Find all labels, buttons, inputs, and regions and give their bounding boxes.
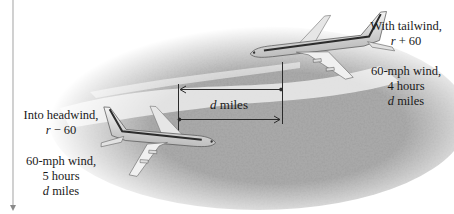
tailwind-distance: d miles xyxy=(360,94,452,109)
distance-unit: miles xyxy=(220,97,248,112)
tailwind-time: 4 hours xyxy=(360,79,452,94)
tailwind-wind: 60-mph wind, xyxy=(360,64,452,79)
headwind-heading: Into headwind, xyxy=(18,108,104,123)
distance-label: d miles xyxy=(210,97,248,113)
rate-expression: + 60 xyxy=(396,34,422,48)
headwind-time: 5 hours xyxy=(18,169,104,184)
headwind-heading-label: Into headwind, r − 60 xyxy=(18,108,104,138)
distance-variable: d xyxy=(210,97,217,112)
rate-expression: − 60 xyxy=(51,123,77,137)
tailwind-trip-label: 60-mph wind, 4 hours d miles xyxy=(360,64,452,109)
headwind-wind: 60-mph wind, xyxy=(18,154,104,169)
headwind-trip-label: 60-mph wind, 5 hours d miles xyxy=(18,154,104,199)
tailwind-rate: r + 60 xyxy=(360,34,452,49)
distance-unit: miles xyxy=(49,184,79,198)
distance-unit: miles xyxy=(394,94,424,108)
tailwind-heading: With tailwind, xyxy=(360,19,452,34)
headwind-rate: r − 60 xyxy=(18,123,104,138)
headwind-distance: d miles xyxy=(18,184,104,199)
tailwind-heading-label: With tailwind, r + 60 xyxy=(360,19,452,49)
diagram-canvas: d miles With tailwind, r + 60 60-mph win… xyxy=(0,0,454,214)
